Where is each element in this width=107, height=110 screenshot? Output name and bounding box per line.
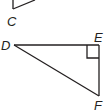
triangle-diagram: C D E F bbox=[0, 0, 107, 110]
side-df bbox=[14, 45, 99, 96]
vertex-label-e: E bbox=[94, 30, 103, 45]
top-triangle-partial bbox=[13, 0, 35, 9]
vertex-label-c: C bbox=[7, 14, 17, 29]
right-triangle-def bbox=[14, 45, 99, 96]
top-triangle-diagonal-side bbox=[13, 0, 35, 9]
vertex-label-f: F bbox=[94, 98, 103, 110]
vertex-label-d: D bbox=[1, 38, 10, 53]
right-angle-marker bbox=[87, 45, 99, 58]
